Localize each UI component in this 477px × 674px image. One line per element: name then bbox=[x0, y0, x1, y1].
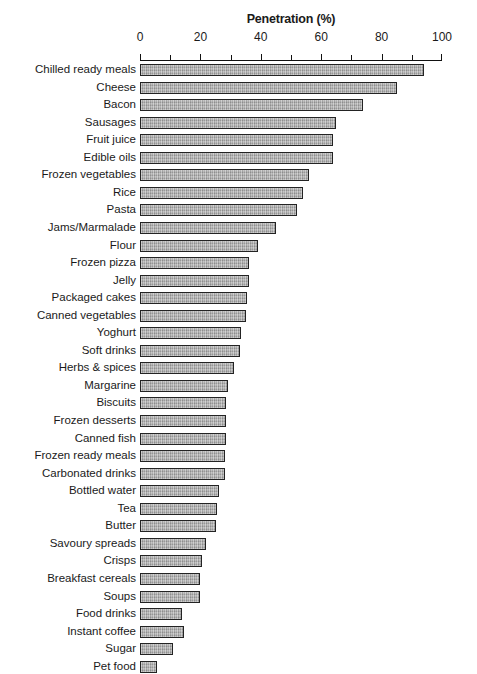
x-axis-tick-10 bbox=[170, 55, 171, 61]
bar-canned-vegetables bbox=[140, 310, 246, 322]
bar-row: Frozen vegetables bbox=[140, 169, 442, 181]
bar-row: Pasta bbox=[140, 204, 442, 216]
bar-breakfast-cereals bbox=[140, 573, 200, 585]
bar-row: Savoury spreads bbox=[140, 538, 442, 550]
bar-biscuits bbox=[140, 397, 226, 409]
category-label: Packaged cakes bbox=[0, 290, 136, 305]
bar-row: Chilled ready meals bbox=[140, 64, 442, 76]
bar-row: Instant coffee bbox=[140, 626, 442, 638]
category-label: Herbs & spices bbox=[0, 360, 136, 375]
bar-row: Bottled water bbox=[140, 485, 442, 497]
plot-area: Chilled ready mealsCheeseBaconSausagesFr… bbox=[140, 61, 442, 613]
x-axis-tick-80 bbox=[382, 54, 383, 61]
category-label: Frozen desserts bbox=[0, 413, 136, 428]
category-label: Breakfast cereals bbox=[0, 571, 136, 586]
bar-row: Soups bbox=[140, 591, 442, 603]
category-label: Cheese bbox=[0, 80, 136, 95]
bar-sugar bbox=[140, 643, 173, 655]
bar-row: Breakfast cereals bbox=[140, 573, 442, 585]
x-axis-tick-40 bbox=[261, 54, 262, 61]
category-label: Pet food bbox=[0, 659, 136, 674]
bar-canned-fish bbox=[140, 433, 226, 445]
x-axis-tick-50 bbox=[291, 55, 292, 61]
x-axis-tick-60 bbox=[321, 54, 322, 61]
x-tick-label-100: 100 bbox=[432, 30, 452, 44]
bar-frozen-ready-meals bbox=[140, 450, 225, 462]
bar-pasta bbox=[140, 204, 297, 216]
category-label: Pasta bbox=[0, 202, 136, 217]
category-label: Rice bbox=[0, 185, 136, 200]
category-label: Flour bbox=[0, 238, 136, 253]
bar-butter bbox=[140, 520, 216, 532]
bar-flour bbox=[140, 240, 258, 252]
category-label: Fruit juice bbox=[0, 132, 136, 147]
bar-soft-drinks bbox=[140, 345, 240, 357]
bar-row: Canned fish bbox=[140, 433, 442, 445]
category-label: Butter bbox=[0, 518, 136, 533]
category-label: Chilled ready meals bbox=[0, 62, 136, 77]
bar-row: Flour bbox=[140, 240, 442, 252]
bar-row: Packaged cakes bbox=[140, 292, 442, 304]
bar-rice bbox=[140, 187, 303, 199]
bar-row: Frozen ready meals bbox=[140, 450, 442, 462]
category-label: Tea bbox=[0, 501, 136, 516]
x-axis-tick-20 bbox=[200, 54, 201, 61]
bar-bottled-water bbox=[140, 485, 219, 497]
bar-row: Edible oils bbox=[140, 152, 442, 164]
x-axis-tick-30 bbox=[231, 55, 232, 61]
category-label: Frozen pizza bbox=[0, 255, 136, 270]
category-label: Sausages bbox=[0, 115, 136, 130]
chart-title: Penetration (%) bbox=[140, 12, 442, 26]
bar-row: Yoghurt bbox=[140, 327, 442, 339]
bar-row: Tea bbox=[140, 503, 442, 515]
category-label: Instant coffee bbox=[0, 624, 136, 639]
bar-row: Frozen pizza bbox=[140, 257, 442, 269]
category-label: Edible oils bbox=[0, 150, 136, 165]
bar-fruit-juice bbox=[140, 134, 333, 146]
category-label: Biscuits bbox=[0, 395, 136, 410]
bar-chilled-ready-meals bbox=[140, 64, 424, 76]
bar-row: Cheese bbox=[140, 82, 442, 94]
category-label: Jelly bbox=[0, 273, 136, 288]
bar-food-drinks bbox=[140, 608, 182, 620]
bar-tea bbox=[140, 503, 217, 515]
category-label: Canned vegetables bbox=[0, 308, 136, 323]
category-label: Frozen vegetables bbox=[0, 167, 136, 182]
category-label: Food drinks bbox=[0, 606, 136, 621]
bar-row: Butter bbox=[140, 520, 442, 532]
category-label: Carbonated drinks bbox=[0, 466, 136, 481]
bar-crisps bbox=[140, 555, 202, 567]
bar-instant-coffee bbox=[140, 626, 184, 638]
bar-row: Rice bbox=[140, 187, 442, 199]
bar-row: Jelly bbox=[140, 275, 442, 287]
x-axis-left-cap bbox=[140, 54, 141, 61]
bar-packaged-cakes bbox=[140, 292, 247, 304]
category-label: Soft drinks bbox=[0, 343, 136, 358]
category-label: Margarine bbox=[0, 378, 136, 393]
bar-row: Margarine bbox=[140, 380, 442, 392]
x-axis-right-cap bbox=[441, 54, 442, 61]
bar-cheese bbox=[140, 82, 397, 94]
x-tick-label-60: 60 bbox=[315, 30, 328, 44]
bar-row: Frozen desserts bbox=[140, 415, 442, 427]
bar-bacon bbox=[140, 99, 363, 111]
x-tick-label-0: 0 bbox=[137, 30, 144, 44]
bar-jelly bbox=[140, 275, 249, 287]
bar-jams-marmalade bbox=[140, 222, 276, 234]
category-label: Jams/Marmalade bbox=[0, 220, 136, 235]
bar-frozen-pizza bbox=[140, 257, 249, 269]
bar-row: Food drinks bbox=[140, 608, 442, 620]
category-label: Bacon bbox=[0, 97, 136, 112]
bar-savoury-spreads bbox=[140, 538, 206, 550]
bar-row: Crisps bbox=[140, 555, 442, 567]
category-label: Canned fish bbox=[0, 431, 136, 446]
bar-yoghurt bbox=[140, 327, 241, 339]
bar-carbonated-drinks bbox=[140, 468, 225, 480]
bar-edible-oils bbox=[140, 152, 333, 164]
bar-pet-food bbox=[140, 661, 157, 673]
category-label: Frozen ready meals bbox=[0, 448, 136, 463]
bar-sausages bbox=[140, 117, 336, 129]
bar-row: Jams/Marmalade bbox=[140, 222, 442, 234]
bar-row: Soft drinks bbox=[140, 345, 442, 357]
bar-row: Carbonated drinks bbox=[140, 468, 442, 480]
